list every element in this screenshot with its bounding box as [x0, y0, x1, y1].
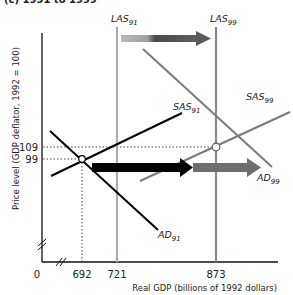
y-tick-99: 99: [25, 154, 38, 165]
ad99-label: AD99: [256, 172, 280, 186]
x-tick-721: 721: [107, 269, 126, 280]
x-tick-692: 692: [72, 269, 91, 280]
sas99-label: SAS99: [246, 91, 274, 105]
las-shift-arrow-icon: [121, 31, 211, 46]
aggregate-supply-demand-chart: (c) 1991 to 1999 Price level (GDP deflat…: [0, 0, 293, 295]
las99-label: LAS99: [210, 13, 237, 27]
x-tick-0: 0: [34, 269, 40, 280]
x-axis-title: Real GDP (billions of 1992 dollars): [132, 283, 277, 293]
equilibrium-1991-point: [79, 156, 86, 163]
equilibrium-1999-point: [212, 143, 220, 151]
y-tick-109: 109: [19, 142, 38, 153]
las91-label: LAS91: [111, 13, 138, 27]
x-tick-873: 873: [206, 269, 225, 280]
sas91-label: SAS91: [173, 101, 200, 115]
y-axis-title: Price level (GDP deflator, 1992 = 100): [11, 47, 21, 210]
chart-title: (c) 1991 to 1999: [4, 0, 97, 5]
ad91-label: AD91: [157, 229, 181, 243]
